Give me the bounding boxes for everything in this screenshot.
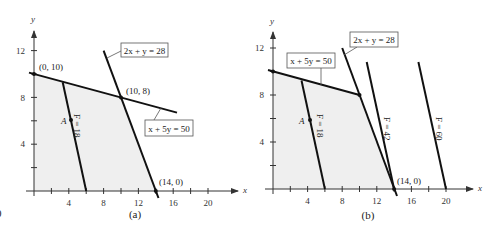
objective-label-f18: F = 18 [315, 114, 325, 138]
x-tick-label: 12 [134, 198, 143, 208]
point-label-a: A [298, 116, 305, 126]
x-tick-label: 20 [204, 198, 214, 208]
vertex-point [154, 189, 158, 193]
vertex-point [119, 95, 123, 99]
x-axis-label: x [242, 185, 247, 195]
feasible-region [273, 72, 394, 190]
x-axis-label: x [477, 183, 482, 193]
panel-a: x y 4 8 12 16 20 4 8 [16, 14, 247, 221]
x-tick-label: 20 [442, 196, 452, 206]
point-a [308, 118, 312, 122]
objective-label-f60: F = 60 [434, 117, 444, 141]
y-tick-label: 4 [21, 139, 26, 149]
constraint-label: 2x + y = 28 [353, 35, 395, 45]
panel-b: x y 4 8 12 16 20 4 8 12 [255, 16, 482, 222]
vertex-point [392, 187, 396, 191]
y-tick-label: 12 [255, 43, 264, 53]
point-label-14-0: (14, 0) [159, 177, 183, 187]
panel-caption: (b) [362, 209, 375, 222]
point-label-a: A [60, 116, 67, 126]
objective-label-f18: F = 18 [72, 114, 82, 138]
x-tick-label: 4 [305, 196, 310, 206]
y-tick-label: 8 [21, 93, 26, 103]
panel-caption: (a) [129, 208, 142, 221]
x-tick-label: 16 [407, 196, 417, 206]
vertex-point [32, 72, 36, 76]
edge-fragment-text: 0 [0, 207, 2, 219]
label-box-x-5y-50: x + 5y = 50 [145, 108, 193, 136]
y-tick-label: 12 [16, 46, 25, 56]
y-tick-label: 8 [260, 90, 265, 100]
y-tick-label: 4 [260, 137, 265, 147]
x-tick-label: 16 [169, 198, 179, 208]
constraint-label: 2x + y = 28 [124, 46, 166, 56]
x-tick-label: 8 [340, 196, 345, 206]
vertex-point [358, 93, 362, 97]
figure: 0 x y 4 8 12 16 20 [0, 0, 499, 233]
x-tick-label: 4 [67, 198, 72, 208]
x-tick-label: 12 [372, 196, 381, 206]
point-label-10-8: (10, 8) [126, 86, 150, 96]
point-label-0-10: (0, 10) [39, 62, 63, 72]
label-box-2x-y-28: 2x + y = 28 [107, 43, 168, 58]
y-axis-label: y [30, 14, 35, 24]
point-label-14-0: (14, 0) [397, 176, 421, 186]
y-axis-label: y [269, 16, 274, 26]
x-tick-label: 8 [101, 198, 106, 208]
objective-label-f42: F = 42 [382, 117, 392, 141]
label-box-2x-y-28: 2x + y = 28 [344, 32, 398, 55]
constraint-label: x + 5y = 50 [290, 56, 332, 66]
vertex-point [271, 70, 275, 74]
constraint-label: x + 5y = 50 [148, 124, 190, 134]
